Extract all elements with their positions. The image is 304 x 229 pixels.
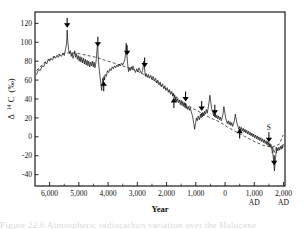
x-axis-title: Year — [151, 204, 168, 214]
minimum-label-s: S — [267, 123, 271, 132]
radiocarbon-chart: 120100806040200-20-40 6,0005,0004,0003,0… — [0, 0, 304, 229]
minimum-label-m: M — [271, 146, 278, 155]
x-tick-label: 5,000 — [70, 189, 87, 198]
y-tick-label: 0 — [28, 132, 32, 141]
y-axis-unit: (‰) — [7, 78, 16, 92]
x-tick-label: 0 — [223, 189, 227, 198]
minima-arrows — [65, 18, 276, 165]
y-tick-label: 100 — [21, 38, 33, 47]
x-tick-sublabel: AD — [249, 198, 260, 207]
x-tick-label: 1,000 — [246, 189, 263, 198]
y-axis-delta-symbol: Δ — [7, 114, 16, 120]
trend-line-series — [36, 53, 283, 148]
plot-frame — [35, 12, 285, 186]
figure-container: 120100806040200-20-40 6,0005,0004,0003,0… — [0, 0, 304, 229]
x-tick-label: 4,000 — [100, 189, 117, 198]
y-axis-title-group: Δ 14 C (‰) — [6, 78, 16, 119]
x-tick-sublabel: AD — [278, 198, 289, 207]
y-tick-label: 60 — [24, 76, 32, 85]
arrow-head — [238, 130, 242, 133]
arrow-head — [65, 24, 69, 27]
y-tick-label: -20 — [22, 151, 32, 160]
y-axis-title: Δ 14 C (‰) — [6, 78, 16, 119]
y-axis-element: C — [7, 96, 16, 102]
x-tick-label: 6,000 — [41, 189, 58, 198]
arrow-head — [267, 138, 271, 141]
arrow-head — [200, 107, 204, 110]
arrow-head — [183, 98, 187, 101]
x-tick-label: 2,000 — [275, 189, 292, 198]
x-axis-ticks — [50, 182, 284, 186]
x-tick-label: 2,000 — [158, 189, 175, 198]
arrow-head — [96, 43, 100, 46]
x-tick-label: 1,000 — [187, 189, 204, 198]
y-tick-label: 120 — [21, 19, 33, 28]
y-axis-isotope-number: 14 — [6, 105, 12, 111]
delta-14c-series — [36, 30, 283, 171]
y-tick-label: 80 — [24, 57, 32, 66]
y-tick-label: 20 — [24, 114, 32, 123]
y-tick-label: -40 — [22, 170, 32, 179]
figure-caption-partial: Figure 22.6 Atmospheric radiocarbon vari… — [0, 220, 304, 229]
arrow-head — [272, 161, 276, 164]
y-tick-label: 40 — [24, 95, 32, 104]
y-axis-tick-labels: 120100806040200-20-40 — [21, 19, 33, 179]
x-tick-label: 3,000 — [129, 189, 146, 198]
